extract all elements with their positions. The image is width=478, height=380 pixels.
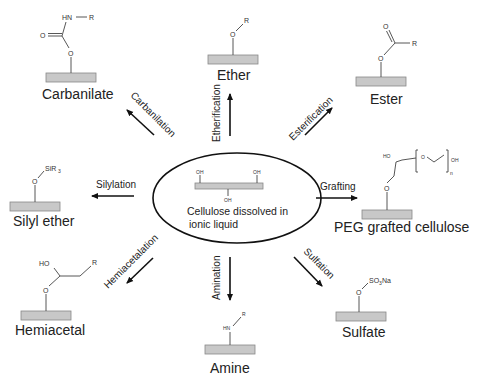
- center-node: OH OH OH Cellulose dissolved in ionic li…: [153, 153, 321, 243]
- atom-label: HN: [62, 14, 72, 21]
- atom-label: SiR: [45, 165, 56, 172]
- product-carbanilate: O O HN R Carbanilate: [40, 14, 114, 102]
- atom-label: HO: [383, 153, 391, 159]
- reaction-label-sulfation: Sulfation: [302, 246, 337, 281]
- product-label: Ether: [217, 67, 251, 83]
- reaction-label-amination: Amination: [211, 256, 222, 300]
- atom-label: Na: [382, 277, 391, 284]
- atom-label: O: [43, 287, 49, 294]
- oh-label: OH: [253, 169, 261, 175]
- substrate-bar: [362, 210, 412, 219]
- product-peg-grafted: O HO O n OH PEG grafted cellulose: [334, 150, 470, 235]
- substrate-bar: [336, 312, 386, 321]
- reaction-label-grafting: Grafting: [320, 181, 356, 192]
- substrate-bar: [46, 73, 96, 82]
- atom-label: R: [89, 14, 94, 21]
- atom-label: O: [40, 32, 46, 39]
- product-label: Amine: [210, 360, 250, 376]
- substrate-bar: [21, 311, 71, 320]
- substrate-bar: [208, 55, 258, 64]
- atom-label: R: [412, 40, 417, 47]
- product-label: Sulfate: [342, 324, 386, 340]
- reaction-label-hemiacetalation: Hemiacetalation: [102, 232, 160, 290]
- atom-label: R: [244, 17, 249, 24]
- atom-label: O: [383, 23, 389, 30]
- product-label: PEG grafted cellulose: [334, 219, 470, 235]
- product-label: Hemiacetal: [15, 322, 85, 338]
- atom-subscript: 3: [58, 168, 61, 174]
- atom-label: OH: [451, 157, 459, 163]
- product-label: Ester: [370, 91, 403, 107]
- reaction-label-etherification: Etherification: [211, 84, 222, 142]
- atom-label: O: [32, 178, 38, 185]
- atom-label: O: [378, 55, 384, 62]
- cellulose-chain-bar: [195, 183, 263, 189]
- atom-label: O: [230, 31, 236, 38]
- oh-label: OH: [196, 169, 204, 175]
- substrate-bar: [205, 345, 255, 354]
- atom-label: HO: [39, 260, 50, 267]
- product-label: Carbanilate: [42, 86, 114, 102]
- center-text-line2: ionic liquid: [189, 218, 238, 230]
- atom-label: O: [384, 185, 390, 192]
- product-amine: HN R Amine: [205, 311, 255, 376]
- product-ester: O R O Ester: [356, 23, 417, 107]
- product-label: Silyl ether: [13, 213, 75, 229]
- atom-label: O: [421, 154, 425, 160]
- product-ether: O R Ether: [208, 17, 258, 83]
- reaction-label-carbanilation: Carbanilation: [129, 90, 178, 139]
- reaction-label-silylation: Silylation: [96, 179, 136, 190]
- atom-label: R: [242, 311, 246, 317]
- atom-label: O: [356, 289, 362, 296]
- product-sulfate: O SO 3 Na Sulfate: [336, 277, 391, 340]
- atom-label: HN: [223, 325, 231, 331]
- reaction-label-esterification: Esterification: [287, 94, 335, 142]
- atom-label: O: [68, 50, 74, 57]
- center-text-line1: Cellulose dissolved in: [187, 205, 288, 217]
- product-silyl-ether: O SiR 3 Silyl ether: [10, 165, 75, 229]
- substrate-bar: [356, 77, 406, 86]
- oh-label: OH: [224, 197, 232, 203]
- atom-label: R: [92, 259, 97, 266]
- repeat-subscript: n: [450, 170, 453, 176]
- substrate-bar: [10, 202, 60, 211]
- cellulose-modification-diagram: OH OH OH Cellulose dissolved in ionic li…: [0, 0, 478, 380]
- product-hemiacetal: O HO R Hemiacetal: [15, 259, 97, 338]
